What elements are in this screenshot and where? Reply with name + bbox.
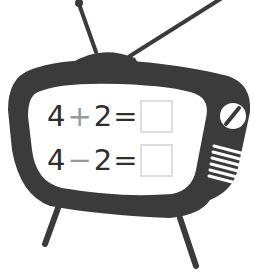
- antenna-left: [79, 4, 96, 52]
- answer-box[interactable]: [140, 100, 173, 133]
- equation-addition: 4 + 2 =: [47, 100, 173, 133]
- tv-leg-right: [180, 218, 196, 266]
- tv-illustration: [0, 0, 258, 273]
- minus-operator: −: [67, 146, 91, 175]
- operand-left: 4: [47, 102, 65, 131]
- equation-subtraction: 4 − 2 =: [47, 144, 173, 177]
- antenna-right: [130, 0, 222, 56]
- answer-box[interactable]: [140, 144, 173, 177]
- operand-right: 2: [94, 146, 112, 175]
- equals-sign: =: [113, 102, 137, 131]
- tv-leg-left: [45, 208, 58, 244]
- operand-right: 2: [94, 102, 112, 131]
- operand-left: 4: [47, 146, 65, 175]
- equals-sign: =: [113, 146, 137, 175]
- plus-operator: +: [67, 102, 91, 131]
